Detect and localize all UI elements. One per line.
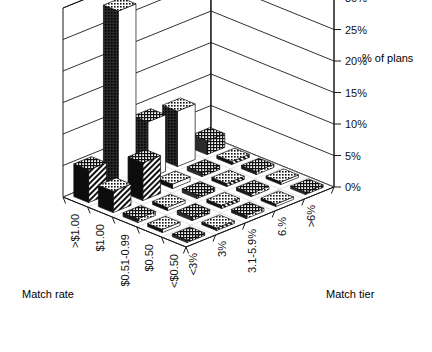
x-category-label: $1.00 (94, 224, 106, 252)
x-axis-title: Match rate (22, 288, 74, 300)
x-category-label: $0.50 (143, 244, 155, 272)
z-tick-label: 25% (345, 24, 367, 36)
bar (98, 178, 131, 213)
bar (163, 98, 196, 167)
x-category-label: >$1.00 (69, 214, 81, 248)
x-category-label: $0.51-0.99 (119, 234, 131, 287)
bar (128, 150, 161, 201)
chart-3d-bar: 0%5%10%15%20%25%30% <$0.50$0.50$0.51-0.9… (0, 0, 432, 352)
z-tick-label: 10% (345, 118, 367, 130)
z-tick-label: 15% (345, 87, 367, 99)
z-tick-label: 5% (345, 150, 361, 162)
y-axis-title: Match tier (326, 288, 374, 300)
z-tick-label: 30% (345, 0, 367, 4)
y-category-label: 6.% (276, 217, 288, 236)
chart-z-tick-labels: 0%5%10%15%20%25%30% (345, 0, 367, 193)
y-category-label: >6% (305, 205, 317, 228)
z-axis-title: % of plans (362, 52, 413, 64)
z-tick-label: 0% (345, 181, 361, 193)
y-category-label: 3% (216, 241, 228, 257)
x-category-label: <$0.50 (168, 254, 180, 288)
y-category-label: 3.1-5.9% (246, 229, 258, 273)
y-category-label: <3% (187, 253, 199, 276)
